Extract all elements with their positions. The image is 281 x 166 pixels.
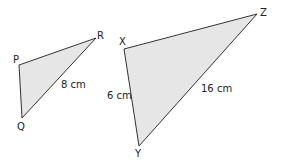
vertex-label-z: Z [260, 8, 267, 18]
side-label-qr: 8 cm [61, 80, 86, 90]
triangle-pqr [19, 38, 96, 118]
vertex-label-q: Q [17, 122, 25, 132]
vertex-label-x: X [119, 37, 126, 47]
side-label-xy: 6 cm [107, 91, 132, 101]
diagram-canvas [0, 0, 281, 166]
side-label-yz: 16 cm [201, 84, 232, 94]
vertex-label-y: Y [135, 149, 141, 159]
vertex-label-p: P [13, 55, 19, 65]
vertex-label-r: R [97, 31, 104, 41]
triangle-xyz [124, 14, 257, 146]
